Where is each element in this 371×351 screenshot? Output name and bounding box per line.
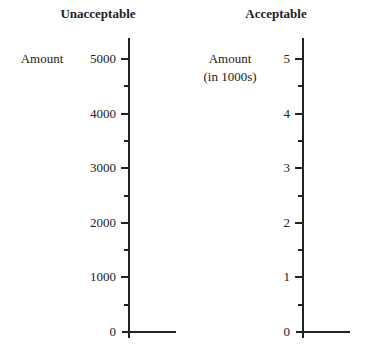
left-minor-tick-500 — [124, 304, 129, 306]
right-minor-tick-0.5 — [298, 304, 303, 306]
right-major-tick-3 — [295, 167, 303, 169]
right-minor-tick-1.5 — [298, 249, 303, 251]
right-major-tick-1 — [295, 276, 303, 278]
right-major-tick-2 — [295, 222, 303, 224]
right-tick-label-4: 4 — [250, 107, 290, 121]
right-y-axis-label-line-2: (in 1000s) — [203, 68, 256, 86]
right-y-axis-label-line-1: Amount — [203, 50, 256, 68]
left-y-axis-label: Amount — [21, 50, 64, 68]
right-major-tick-5 — [295, 58, 303, 60]
left-major-tick-2000 — [121, 222, 129, 224]
left-minor-tick-1500 — [124, 249, 129, 251]
right-y-axis-label: Amount (in 1000s) — [203, 50, 256, 86]
left-major-tick-3000 — [121, 167, 129, 169]
left-minor-tick-4500 — [124, 85, 129, 87]
left-tick-label-4000: 4000 — [76, 107, 116, 121]
right-chart-acceptable: Acceptable Amount (in 1000s) 5 4 3 2 1 0 — [185, 0, 371, 351]
right-tick-label-1: 1 — [250, 270, 290, 284]
right-y-axis — [302, 38, 304, 338]
right-minor-tick-2.5 — [298, 195, 303, 197]
left-y-axis-label-line-1: Amount — [21, 50, 64, 68]
right-x-axis — [296, 331, 350, 333]
right-tick-label-0: 0 — [250, 325, 290, 339]
right-tick-label-3: 3 — [250, 161, 290, 175]
left-tick-label-5000: 5000 — [76, 52, 116, 66]
left-minor-tick-2500 — [124, 195, 129, 197]
left-y-axis — [128, 38, 130, 338]
right-chart-title: Acceptable — [245, 6, 306, 22]
left-tick-label-1000: 1000 — [76, 270, 116, 284]
right-tick-label-2: 2 — [250, 216, 290, 230]
left-major-tick-5000 — [121, 58, 129, 60]
left-major-tick-1000 — [121, 276, 129, 278]
right-minor-tick-3.5 — [298, 140, 303, 142]
right-tick-label-5: 5 — [250, 52, 290, 66]
right-major-tick-4 — [295, 113, 303, 115]
left-chart-unacceptable: Unacceptable Amount 5000 4000 3000 2000 … — [0, 0, 185, 351]
left-minor-tick-3500 — [124, 140, 129, 142]
left-x-axis — [122, 331, 176, 333]
left-major-tick-4000 — [121, 113, 129, 115]
left-tick-label-2000: 2000 — [76, 216, 116, 230]
right-minor-tick-4.5 — [298, 85, 303, 87]
left-tick-label-3000: 3000 — [76, 161, 116, 175]
left-tick-label-0: 0 — [76, 325, 116, 339]
left-chart-title: Unacceptable — [60, 6, 135, 22]
